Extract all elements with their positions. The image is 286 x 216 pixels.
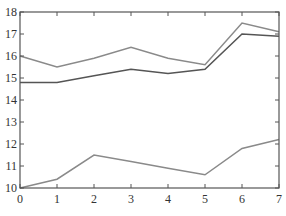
y-tick-label: 16 [5,49,17,63]
y-axis: 101112131415161718 [5,5,279,195]
series-layer [20,23,279,188]
x-axis: 01234567 [17,12,282,206]
y-tick-label: 13 [5,115,17,129]
plot-area-frame [20,12,279,188]
series-bottom-line [20,140,279,188]
series-middle-line [20,34,279,82]
y-tick-label: 12 [5,137,17,151]
x-tick-label: 6 [239,192,245,206]
x-tick-label: 7 [276,192,282,206]
y-tick-label: 10 [5,181,17,195]
series-top-line [20,23,279,67]
x-tick-label: 5 [202,192,208,206]
line-chart: 01234567 101112131415161718 [0,0,286,216]
y-tick-label: 18 [5,5,17,19]
x-tick-label: 4 [165,192,171,206]
y-tick-label: 14 [5,93,17,107]
x-tick-label: 0 [17,192,23,206]
x-tick-label: 3 [128,192,134,206]
y-tick-label: 11 [5,159,17,173]
x-tick-label: 2 [91,192,97,206]
x-tick-label: 1 [54,192,60,206]
y-tick-label: 17 [5,27,17,41]
y-tick-label: 15 [5,71,17,85]
